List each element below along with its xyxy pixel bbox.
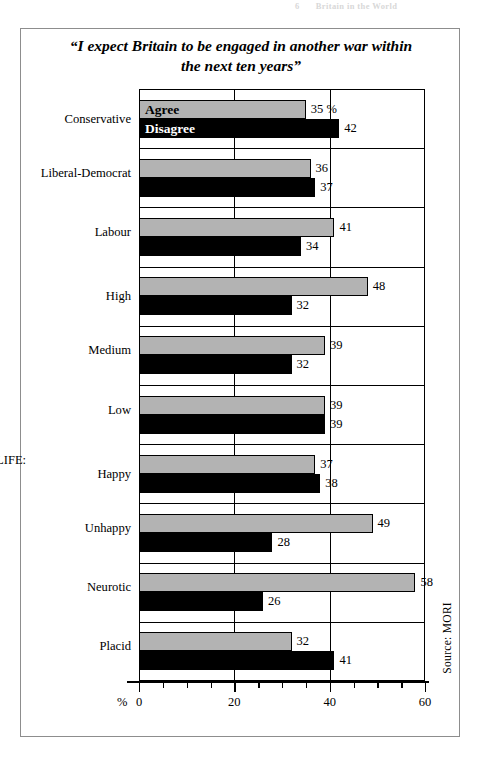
source-note: Source: MORI [441,602,453,674]
axis-tick-5 [163,681,164,688]
bar-disagree [139,178,315,197]
category-name: Liberal-Democrat [0,166,131,180]
running-page-header: 6Britain in the World [295,1,465,13]
category-name: Happy [0,467,131,481]
value-label-agree: 48 [373,277,386,296]
group-separator [139,503,425,504]
value-label-agree: 39 [330,396,343,415]
plot-area: POLITICS:ConservativeLiberal-DemocratLab… [139,89,425,681]
bar-disagree [139,355,292,374]
value-label-disagree: 42 [344,119,357,138]
axis-tick-label-0: 0 [136,695,142,710]
value-label-agree: 58 [420,573,433,592]
value-label-agree: 36 [316,159,329,178]
value-label-disagree: 41 [339,651,352,670]
axis-tick-45 [354,681,355,688]
category-name: Labour [0,225,131,239]
bar-agree [139,514,373,533]
legend-label-agree: Agree [145,100,179,119]
value-label-agree: 32 [297,632,310,651]
axis-tick-20 [234,681,235,692]
chart-title-line-1: “I expect Britain to be engaged in anoth… [70,37,412,54]
group-separator [139,148,425,149]
category-group-heading: VIEW OF LIFE: [0,453,131,467]
axis-line [127,681,429,683]
bar-disagree [139,474,320,493]
category-group-heading: INCOME: [0,275,131,289]
bar-disagree [139,237,301,256]
category-name: Placid [0,639,131,653]
bar-agree [139,336,325,355]
category-name: Unhappy [0,521,131,535]
bar-agree [139,218,334,237]
axis-tick-10 [187,681,188,688]
axis-tick-label-60: 60 [419,695,432,710]
figure-box: “I expect Britain to be engaged in anoth… [20,28,460,737]
group-separator [139,267,425,268]
value-label-disagree: 32 [297,355,310,374]
group-separator [139,326,425,327]
axis-tick-35 [306,681,307,688]
bar-disagree [139,592,263,611]
bar-disagree [139,296,292,315]
axis-tick-0 [139,681,140,692]
bar-disagree [139,651,334,670]
page-number: 6 [295,1,300,11]
value-label-disagree: 32 [297,296,310,315]
value-label-disagree: 39 [330,415,343,434]
axis-tick-55 [401,681,402,688]
bar-agree [139,455,315,474]
value-label-agree: 49 [378,514,391,533]
value-label-agree: 41 [339,218,352,237]
value-label-disagree: 38 [325,474,338,493]
group-separator [139,563,425,564]
bar-disagree [139,533,272,552]
bar-agree [139,277,368,296]
bar-agree [139,573,415,592]
value-label-disagree: 37 [320,178,333,197]
axis-tick-label-20: 20 [228,695,241,710]
value-label-disagree: 34 [306,237,319,256]
category-name: Medium [0,343,131,357]
bar-agree [139,396,325,415]
bar-agree [139,159,311,178]
category-group-heading: POLITICS: [0,98,131,112]
axis-tick-50 [377,681,378,688]
group-separator [139,207,425,208]
group-separator [139,444,425,445]
value-label-agree: 35 % [311,100,337,119]
category-name: Conservative [0,112,131,126]
x-axis: 0204060 % [139,681,425,721]
page-header-text: Britain in the World [316,1,398,11]
chart-title: “I expect Britain to be engaged in anoth… [47,36,435,77]
category-name: High [0,289,131,303]
group-separator [139,385,425,386]
axis-tick-30 [282,681,283,688]
value-label-agree: 39 [330,336,343,355]
axis-tick-60 [425,681,426,692]
chart-title-line-2: the next ten years” [181,57,301,74]
axis-tick-label-40: 40 [323,695,336,710]
category-name: Low [0,403,131,417]
group-separator [139,622,425,623]
value-label-disagree: 28 [277,533,290,552]
legend-label-disagree: Disagree [145,119,195,138]
bar-agree [139,632,292,651]
category-label-column: POLITICS:ConservativeLiberal-DemocratLab… [0,89,139,681]
axis-tick-15 [211,681,212,688]
percent-sign-label: % [117,695,127,710]
bar-disagree [139,415,325,434]
value-label-disagree: 26 [268,592,281,611]
axis-tick-40 [330,681,331,692]
category-name: Neurotic [0,580,131,594]
axis-tick-25 [258,681,259,688]
value-label-agree: 37 [320,455,333,474]
